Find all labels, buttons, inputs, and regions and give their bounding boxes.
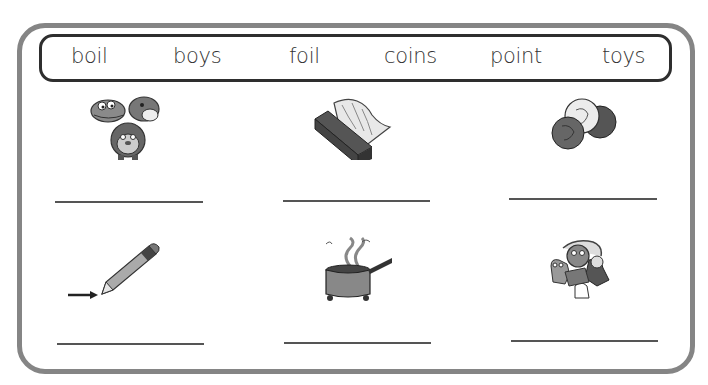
coins-picture — [550, 96, 620, 156]
word-bank-word: toys — [602, 44, 645, 68]
answer-line[interactable] — [57, 343, 204, 345]
toys-picture — [545, 238, 620, 303]
answer-line[interactable] — [511, 340, 658, 342]
word-bank-word: boys — [173, 44, 221, 68]
word-bank-word: boil — [71, 44, 108, 68]
word-bank-word: point — [490, 44, 542, 68]
answer-line[interactable] — [55, 201, 203, 203]
point-picture — [66, 240, 161, 302]
answer-line[interactable] — [284, 342, 431, 344]
boys-picture — [88, 93, 168, 163]
answer-line[interactable] — [509, 198, 657, 200]
word-bank: boil boys foil coins point toys — [39, 34, 672, 82]
boil-picture — [322, 236, 394, 304]
word-bank-word: foil — [289, 44, 320, 68]
word-bank-word: coins — [384, 44, 437, 68]
answer-line[interactable] — [283, 200, 430, 202]
foil-picture — [312, 95, 392, 160]
